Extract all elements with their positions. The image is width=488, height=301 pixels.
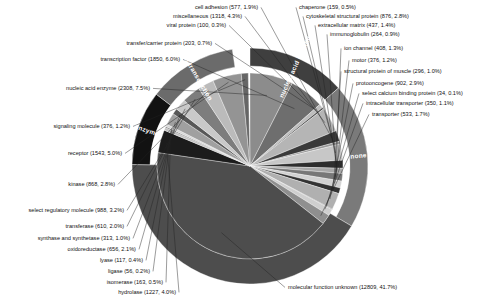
slice-label: ligase (56, 0.2%): [108, 268, 150, 274]
slice-label: viral protein (100, 0.3%): [167, 22, 227, 28]
slice-label: intracellular transporter (350, 1.1%): [366, 100, 454, 106]
slice-label: synthase and synthetase (313, 1.0%): [38, 235, 130, 241]
slice-label: lyase (117, 0.4%): [100, 257, 143, 263]
slice-label: cytoskeletal structural protein (876, 2.…: [306, 13, 409, 19]
pie-chart-figure: nucleic acid enzyme (2308, 7.5%)transcri…: [0, 0, 488, 301]
slice-label: motor (376, 1.2%): [352, 57, 397, 63]
slice-label: hydrolase (1227, 4.0%): [118, 289, 176, 295]
slice-label: protooncogene (902, 2.9%): [356, 80, 424, 86]
pie-sectors-group: [157, 73, 343, 259]
slice-label: nucleic acid enzyme (2308, 7.5%): [66, 85, 150, 91]
slice-label: transferase (610, 2.0%): [66, 223, 125, 229]
chart-canvas: nucleic acid enzyme (2308, 7.5%)transcri…: [0, 0, 488, 301]
slice-label: immunoglobulin (264, 0.9%): [330, 31, 400, 37]
slice-label: signaling molecule (376, 1.2%): [54, 123, 131, 129]
slice-label: transcription factor (1850, 6.0%): [100, 56, 180, 62]
slice-label: extracellular matrix (437, 1.4%): [318, 22, 396, 28]
slice-label: isomerase (163, 0.5%): [107, 279, 163, 285]
slice-label: select regulatory molecule (988, 3.2%): [29, 207, 125, 213]
slice-label: select calcium binding protein (34, 0.1%…: [362, 90, 463, 96]
slice-label: molecular function unknown (12809, 41.7%…: [288, 284, 397, 290]
slice-label: transfer/carrier protein (203, 0.7%): [127, 40, 213, 46]
slice-label: receptor (1543, 5.0%): [68, 150, 122, 156]
slice-label: miscellaneous (1318, 4.3%): [173, 13, 242, 19]
slice-label: chaperone (159, 0.5%): [299, 4, 356, 10]
slice-label: oxidoreductase (656, 2.1%): [68, 246, 137, 252]
slice-label: kinase (868, 2.8%): [68, 181, 115, 187]
slice-label: structural protein of muscle (296, 1.0%): [344, 68, 442, 74]
slice-label: ion channel (408, 1.3%): [344, 45, 403, 51]
slice-label: transporter (533, 1.7%): [372, 111, 430, 117]
slice-label: cell adhesion (577, 1.9%): [195, 4, 258, 10]
